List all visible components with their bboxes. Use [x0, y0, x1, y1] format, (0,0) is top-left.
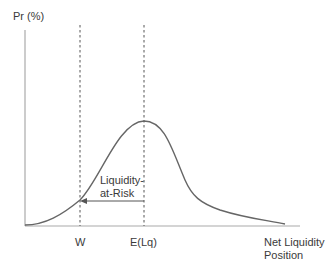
x-axis-label-2: Position	[264, 249, 303, 262]
mean-label: E(Lq)	[130, 236, 157, 249]
x-axis-label-1: Net Liquidity	[264, 236, 325, 249]
diagram-canvas	[0, 0, 335, 270]
y-axis-label: Pr (%)	[13, 10, 44, 23]
w-label: W	[75, 236, 85, 249]
distribution-curve	[25, 121, 285, 225]
annotation-label-2: at-Risk	[100, 187, 134, 200]
annotation-label-1: Liquidity-	[100, 174, 144, 187]
